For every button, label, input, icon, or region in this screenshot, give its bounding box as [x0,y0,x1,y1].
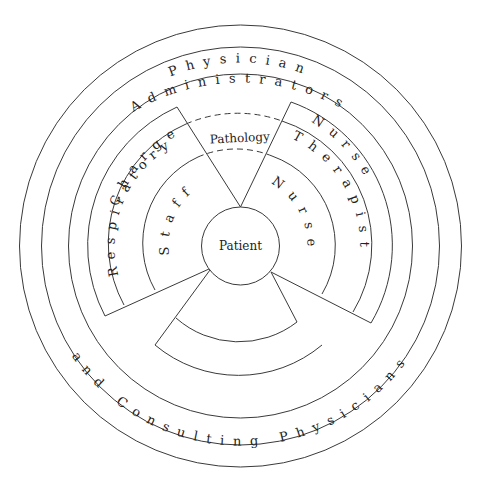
bottom-sector-inner-arc [176,318,297,342]
label-administrators: Administrators [127,70,354,114]
label-staff: Staff [156,179,199,256]
bottom-sector-right-edge [271,272,297,322]
diagram-canvas: Administrators and Consulting Physicians… [0,0,483,482]
label-pathology: Pathology [209,129,270,146]
care-team-diagram: Administrators and Consulting Physicians… [0,0,483,482]
label-therapist: Therapist [290,128,372,256]
label-patient: Patient [219,239,262,253]
label-consulting-physicians: and Consulting Physicians [69,349,413,449]
bottom-sector-outline [155,270,322,375]
pathology-outer-dashed-arc [186,113,282,124]
pathology-inner-dashed-arc [198,149,272,157]
